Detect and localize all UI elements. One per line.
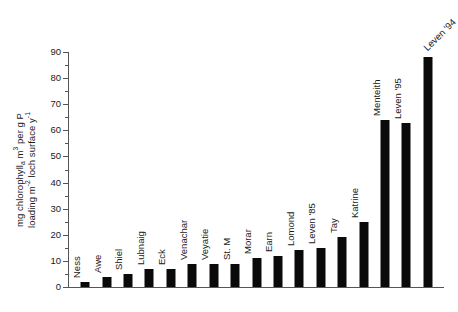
bar (209, 264, 218, 288)
bar (316, 248, 325, 287)
bar (81, 282, 90, 287)
bar (381, 120, 390, 287)
tick-mark (63, 287, 68, 288)
bar-category-label: St. M (222, 237, 232, 259)
bar (102, 277, 111, 287)
bar-category-label: Earn (264, 232, 274, 252)
bar-group: Ness (74, 52, 95, 287)
bar-category-label: Katrine (350, 188, 360, 218)
y-tick-label: 40 (50, 178, 61, 188)
bar (338, 237, 347, 287)
bar (123, 274, 132, 287)
bar (423, 57, 432, 287)
y-tick-label: 20 (50, 230, 61, 240)
bar-series: NessAweShielLubnaigEckVenacharVeyatieSt.… (68, 52, 444, 287)
y-tick-label: 80 (50, 73, 61, 83)
bar-category-label: Morar (243, 229, 253, 254)
bar (252, 258, 261, 287)
y-axis-title: mg chlorophylla m3 per g P loading m-2 l… (10, 52, 40, 288)
x-axis-spine (68, 287, 444, 288)
y-tick-label: 70 (50, 99, 61, 109)
bar-category-label: Leven '95 (393, 78, 403, 119)
plot-area: 0102030405060708090 NessAweShielLubnaigE… (68, 52, 444, 288)
bar (145, 269, 154, 287)
bar (295, 250, 304, 287)
y-axis-title-line-2: loading m-2 loch surface y-1 (25, 112, 37, 228)
bar-group: Earn (267, 52, 288, 287)
bar-category-label: Lubnaig (136, 231, 146, 265)
y-tick-label: 90 (50, 47, 61, 57)
y-tick-label: 60 (50, 125, 61, 135)
y-tick-label: 10 (50, 256, 61, 266)
bar-category-label: Shiel (114, 249, 124, 270)
bar-category-label: Tay (329, 219, 339, 234)
bar-group: Leven '95 (396, 52, 417, 287)
bar-category-label: Eck (157, 249, 167, 265)
bar (188, 264, 197, 288)
y-tick-label: 30 (50, 204, 61, 214)
bar-category-label: Lomond (286, 212, 296, 246)
bar (359, 222, 368, 287)
bar-category-label: Ness (72, 256, 82, 278)
bar (273, 256, 282, 287)
y-axis-title-line-1: mg chlorophylla m3 per g P (14, 112, 26, 228)
bar-group: Lomond (289, 52, 310, 287)
bar (402, 123, 411, 288)
y-tick-label: 0 (56, 282, 61, 292)
bar-category-label: Veyatie (200, 228, 210, 259)
bar-category-label: Venachar (179, 219, 189, 259)
bar-group: Leven '85 (310, 52, 331, 287)
bar-category-label: Leven '94 (422, 17, 458, 53)
y-tick-label: 50 (50, 151, 61, 161)
bar (166, 269, 175, 287)
bar-category-label: Menteith (372, 79, 382, 115)
bar-category-label: Leven '85 (307, 203, 317, 244)
bar (231, 264, 240, 288)
bar-category-label: Awe (93, 254, 103, 272)
bar-group: Leven '94 (417, 52, 438, 287)
bar-group: Tay (332, 52, 353, 287)
